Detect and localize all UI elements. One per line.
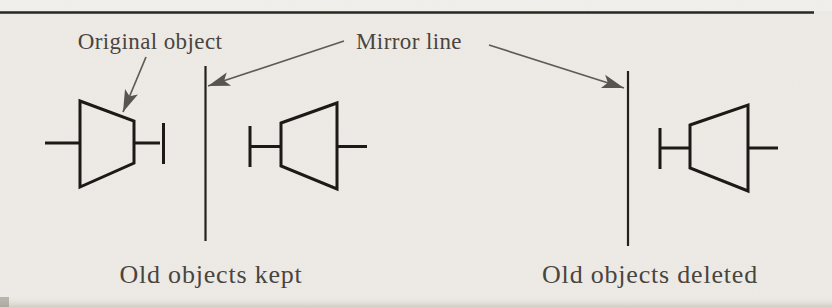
scanned-figure: Original object Mirror line [0, 0, 832, 307]
caption-old-objects-deleted: Old objects deleted [542, 260, 758, 289]
label-mirror-line: Mirror line [356, 29, 462, 54]
bottom-scan-shadow [0, 296, 832, 307]
label-original-object: Original object [78, 29, 223, 54]
figure-canvas: Original object Mirror line [0, 0, 832, 307]
bottom-left-smudge [0, 297, 9, 307]
paper-top-strip [0, 0, 832, 11]
caption-old-objects-kept: Old objects kept [119, 260, 302, 289]
